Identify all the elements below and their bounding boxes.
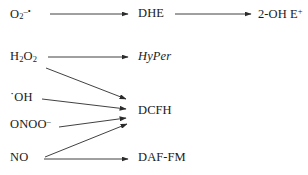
species-label-hydrogen-peroxide: H2O2 [10, 50, 37, 63]
arrow-peroxynitrite-to-dcfh [59, 118, 126, 127]
species-hydrogen-peroxide-base: H [10, 49, 19, 63]
species-nitric-oxide-base: NO [10, 150, 28, 164]
species-label-superoxide: O2–• [10, 7, 31, 21]
arrow-nitric-oxide-to-dcfh [45, 124, 127, 157]
probe-label-hyper: HyPer [138, 50, 171, 63]
arrow-layer [0, 0, 308, 175]
species-label-hydroxyl-radical: ˙OH [10, 91, 33, 104]
species-label-peroxynitrite: ONOO– [10, 117, 51, 130]
species-peroxynitrite-superscript: – [47, 116, 51, 126]
product-2-oh-ethidium-base: 2-OH E [258, 7, 298, 21]
probe-specificity-diagram: O2–• H2O2 ˙OH ONOO– NO DHE HyPer DCFH DA… [0, 0, 308, 175]
product-2-oh-ethidium-superscript: + [298, 6, 303, 16]
species-label-nitric-oxide: NO [10, 151, 28, 164]
species-superoxide-base: O [10, 7, 19, 21]
probe-label-daf-fm: DAF-FM [138, 151, 186, 164]
probe-label-dhe: DHE [138, 7, 164, 20]
arrow-hydroxyl-radical-to-dcfh [42, 99, 126, 109]
arrow-hydrogen-peroxide-to-dcfh [46, 68, 126, 99]
species-hydrogen-peroxide-subscript2: 2 [33, 54, 37, 64]
product-label-2-oh-ethidium: 2-OH E+ [258, 7, 303, 20]
species-hydroxyl-radical-base: ˙OH [10, 90, 33, 104]
probe-label-dcfh: DCFH [138, 104, 172, 117]
species-hydrogen-peroxide-base2: O [24, 49, 33, 63]
species-peroxynitrite-base: ONOO [10, 117, 47, 131]
species-superoxide-superscript: –• [24, 6, 31, 16]
